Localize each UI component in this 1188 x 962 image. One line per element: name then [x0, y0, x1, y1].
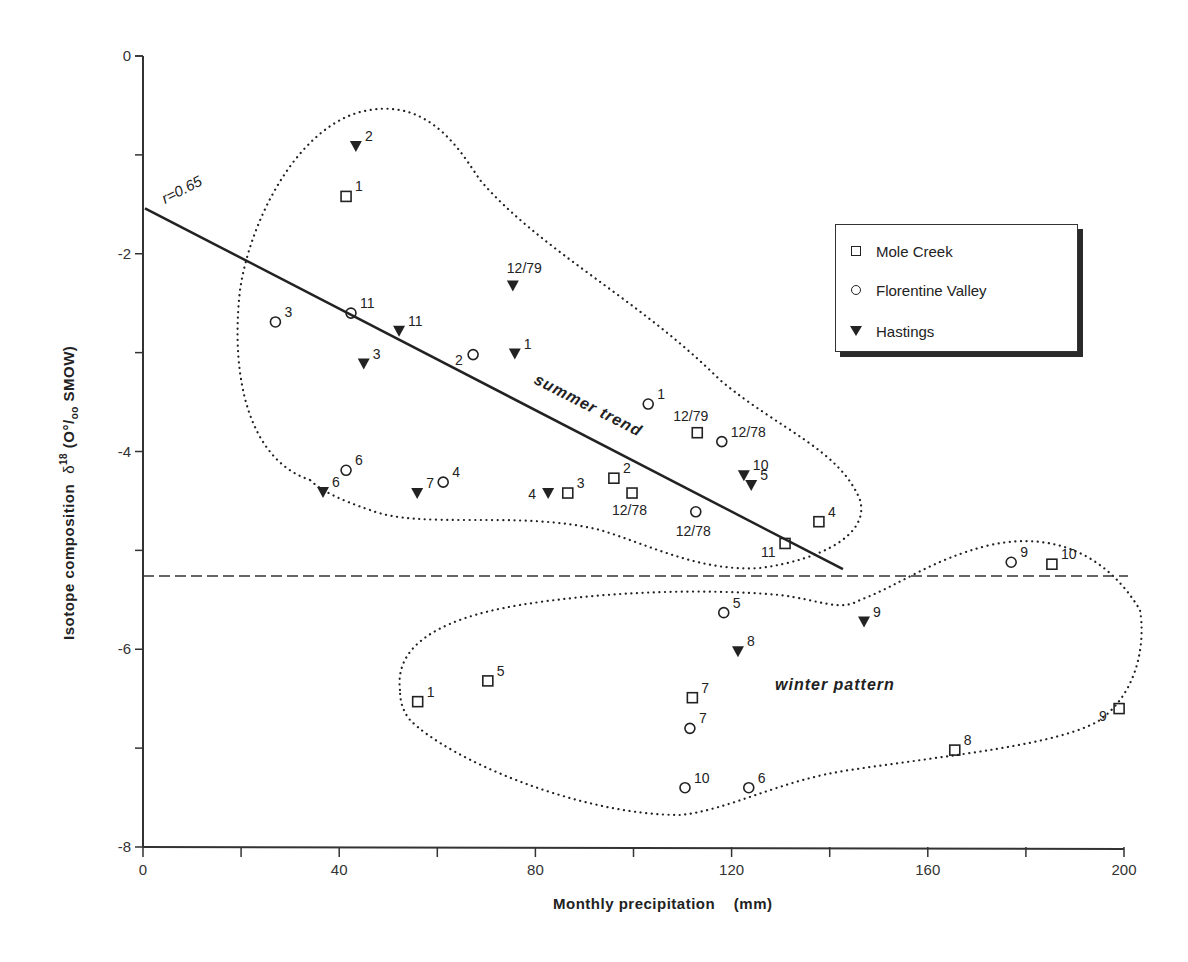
hastings-point — [507, 280, 519, 291]
legend-item-mole-creek: Mole Creek — [836, 239, 953, 263]
mole-creek-point — [950, 745, 960, 755]
florentine-valley-point — [685, 723, 695, 733]
point-label: 7 — [699, 710, 707, 726]
summer-envelope — [238, 109, 862, 569]
point-label: 8 — [747, 633, 755, 649]
point-label: 8 — [964, 732, 972, 748]
mole-creek-point — [627, 488, 637, 498]
point-label: 6 — [758, 770, 766, 786]
hastings-point — [358, 359, 370, 370]
point-label: 7 — [701, 680, 709, 696]
winter-envelope — [400, 541, 1142, 815]
scatter-chart: 0-2-4-6-804080120160200 r=0.65 summer tr… — [0, 0, 1188, 962]
hastings-point — [411, 488, 423, 499]
florentine-valley-point — [341, 465, 351, 475]
circle-marker-icon — [836, 285, 876, 295]
point-label: 10 — [1061, 546, 1077, 562]
point-label: 1 — [657, 386, 665, 402]
point-label: 10 — [694, 770, 710, 786]
point-label: 6 — [355, 452, 363, 468]
legend-item-hastings: Hastings — [836, 319, 934, 343]
point-label: 3 — [284, 304, 292, 320]
r-value-label: r=0.65 — [159, 172, 206, 207]
triangle-marker-icon — [836, 326, 876, 336]
point-label: 9 — [873, 604, 881, 620]
regression-line — [145, 208, 843, 569]
point-label: 2 — [365, 128, 373, 144]
point-label: 1 — [524, 336, 532, 352]
hastings-point — [393, 326, 405, 337]
point-label: 5 — [497, 663, 505, 679]
mole-creek-point — [413, 697, 423, 707]
legend-label: Florentine Valley — [876, 282, 987, 299]
point-label: 1 — [427, 684, 435, 700]
point-label: 2 — [623, 460, 631, 476]
point-label: 12/78 — [731, 424, 766, 440]
legend-label: Hastings — [876, 323, 934, 340]
mole-creek-point — [692, 428, 702, 438]
point-label: 3 — [577, 475, 585, 491]
y-tick-label: -6 — [118, 640, 131, 657]
florentine-valley-point — [691, 507, 701, 517]
hastings-point — [542, 488, 554, 499]
florentine-valley-point — [744, 783, 754, 793]
winter-pattern-label: winter pattern — [775, 676, 895, 693]
point-label: 11 — [761, 544, 776, 560]
point-label: 5 — [733, 595, 741, 611]
point-label: 7 — [426, 475, 434, 491]
mole-creek-point — [563, 488, 573, 498]
legend: Mole Creek Florentine Valley Hastings — [835, 224, 1078, 352]
y-axis-title: Isotope compositionδ18 (O°/oo SMOW) — [58, 346, 80, 640]
hastings-point — [317, 487, 329, 498]
square-marker-icon — [836, 246, 876, 256]
point-label: 1 — [355, 178, 363, 194]
florentine-valley-point — [680, 783, 690, 793]
florentine-valley-point — [719, 608, 729, 618]
summer-trend-label: summer trend — [532, 371, 646, 440]
florentine-valley-point — [438, 477, 448, 487]
point-label: 11 — [408, 313, 423, 329]
hastings-point — [509, 349, 521, 360]
x-tick-label: 0 — [139, 861, 147, 878]
legend-item-florentine-valley: Florentine Valley — [836, 278, 987, 302]
point-label: 9 — [1020, 544, 1028, 560]
x-tick-label: 80 — [527, 861, 544, 878]
florentine-valley-point — [717, 437, 727, 447]
point-label: 12/78 — [676, 523, 711, 539]
mole-creek-point — [687, 693, 697, 703]
mole-creek-point — [609, 473, 619, 483]
hastings-point — [858, 617, 870, 628]
x-tick-label: 160 — [915, 861, 940, 878]
point-label: 4 — [828, 504, 836, 520]
point-label: 3 — [373, 346, 381, 362]
mole-creek-point — [1047, 559, 1057, 569]
point-label: 9 — [1099, 708, 1107, 724]
x-tick-label: 200 — [1111, 861, 1136, 878]
hastings-point — [350, 141, 362, 152]
hastings-point — [745, 480, 757, 491]
hastings-point — [732, 646, 744, 657]
point-label: 11 — [360, 295, 375, 311]
y-tick-label: -8 — [118, 838, 131, 855]
point-label: 2 — [455, 352, 463, 368]
legend-label: Mole Creek — [876, 243, 953, 260]
florentine-valley-point — [468, 350, 478, 360]
point-label: 12/79 — [673, 408, 708, 424]
point-label: 12/78 — [612, 502, 647, 518]
y-tick-label: 0 — [123, 47, 131, 64]
mole-creek-point — [814, 517, 824, 527]
point-label: 6 — [332, 474, 340, 490]
point-label: 12/79 — [507, 260, 542, 276]
point-label: 5 — [760, 467, 768, 483]
point-label: 4 — [528, 486, 536, 502]
hastings-point — [738, 470, 750, 481]
x-axis-title: Monthly precipitation (mm) — [553, 895, 773, 912]
envelopes — [238, 109, 1142, 815]
point-label: 4 — [452, 464, 460, 480]
mole-creek-point — [341, 191, 351, 201]
x-tick-label: 120 — [719, 861, 744, 878]
y-tick-label: -2 — [118, 245, 131, 262]
florentine-valley-point — [270, 317, 280, 327]
florentine-valley-point — [1006, 557, 1016, 567]
y-tick-label: -4 — [118, 443, 131, 460]
